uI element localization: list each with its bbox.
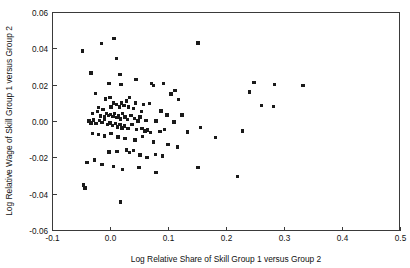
- y-axis-title: Log Relative Wage of Skill Group 1 versu…: [4, 26, 14, 216]
- x-tick-label: 0.0: [105, 234, 117, 243]
- plot-frame: [53, 13, 400, 231]
- data-point: [123, 124, 126, 127]
- data-point: [141, 135, 144, 138]
- data-point: [93, 158, 96, 161]
- data-point: [82, 183, 85, 186]
- data-point: [136, 119, 139, 122]
- data-point: [154, 171, 157, 174]
- data-point: [112, 37, 115, 40]
- data-point: [114, 122, 117, 125]
- data-point: [236, 175, 239, 178]
- data-point: [83, 186, 86, 189]
- x-tick-label: 0.3: [279, 234, 291, 243]
- data-point: [140, 110, 143, 113]
- x-tick-label: 0.5: [395, 234, 407, 243]
- y-axis-tick-labels: -0.06-0.04-0.020.000.020.040.06: [29, 9, 48, 236]
- data-point: [123, 137, 126, 140]
- data-point: [169, 92, 172, 95]
- data-point: [100, 163, 103, 166]
- data-point: [125, 99, 128, 102]
- x-axis-title: Log Relative Share of Skill Group 1 vers…: [131, 254, 322, 264]
- data-point: [146, 128, 149, 131]
- data-point: [115, 150, 118, 153]
- data-point: [133, 138, 136, 141]
- data-point: [301, 84, 304, 87]
- y-tick-label: -0.04: [29, 191, 48, 200]
- data-point: [133, 117, 136, 120]
- data-point: [154, 119, 157, 122]
- data-point: [107, 150, 110, 153]
- data-point: [173, 89, 176, 92]
- data-point: [128, 96, 131, 99]
- scatter-chart-figure: -0.10.00.10.20.30.40.5 -0.06-0.04-0.020.…: [0, 0, 410, 268]
- data-point: [121, 112, 124, 115]
- y-tick-label: -0.02: [29, 154, 48, 163]
- data-point: [97, 133, 100, 136]
- data-point: [152, 140, 155, 143]
- data-point: [199, 126, 202, 129]
- data-point: [92, 118, 95, 121]
- data-point: [130, 123, 133, 126]
- y-tick-label: 0.02: [32, 82, 48, 91]
- data-point: [148, 102, 151, 105]
- data-point: [137, 166, 140, 169]
- data-point: [140, 127, 143, 130]
- data-point: [109, 105, 112, 108]
- x-axis-tick-labels: -0.10.00.10.20.30.40.5: [45, 234, 406, 243]
- data-point: [89, 71, 92, 74]
- data-point: [142, 103, 145, 106]
- data-point: [196, 41, 199, 44]
- y-tick-label: 0.04: [32, 45, 48, 54]
- data-point: [272, 105, 275, 108]
- data-point: [103, 117, 106, 120]
- data-point: [248, 90, 251, 93]
- data-point: [125, 148, 128, 151]
- data-point: [145, 156, 148, 159]
- data-point: [112, 101, 115, 104]
- data-point: [94, 122, 97, 125]
- data-point: [172, 120, 175, 123]
- data-point: [134, 101, 137, 104]
- data-point: [214, 136, 217, 139]
- data-point: [126, 118, 129, 121]
- data-point: [115, 103, 118, 106]
- y-tick-label: 0.00: [32, 118, 48, 127]
- data-point: [135, 128, 138, 131]
- data-point: [108, 96, 111, 99]
- data-point: [109, 132, 112, 135]
- data-point: [152, 84, 155, 87]
- data-point: [165, 113, 168, 116]
- data-point: [118, 123, 121, 126]
- data-point: [143, 129, 146, 132]
- data-point: [101, 108, 104, 111]
- data-point: [134, 78, 137, 81]
- data-point: [112, 165, 115, 168]
- data-point: [89, 121, 92, 124]
- data-point: [117, 114, 120, 117]
- data-point: [121, 168, 124, 171]
- data-point: [100, 121, 103, 124]
- y-axis-ticks: [53, 13, 57, 231]
- data-point: [180, 113, 183, 116]
- data-point: [138, 115, 141, 118]
- x-tick-label: 0.1: [163, 234, 175, 243]
- data-point: [186, 130, 189, 133]
- data-point: [91, 112, 94, 115]
- data-point: [97, 106, 100, 109]
- data-point: [128, 151, 131, 154]
- x-tick-label: 0.2: [221, 234, 233, 243]
- data-point: [122, 104, 125, 107]
- data-point: [118, 73, 121, 76]
- y-tick-label: 0.06: [32, 9, 48, 18]
- data-point: [107, 82, 110, 85]
- data-point: [104, 97, 107, 100]
- data-point: [159, 109, 162, 112]
- x-axis-ticks: [53, 227, 401, 231]
- data-point: [132, 149, 135, 152]
- data-point: [176, 145, 179, 148]
- data-point: [119, 83, 122, 86]
- data-point: [149, 131, 152, 134]
- data-point: [163, 128, 166, 131]
- plot-canvas: -0.10.00.10.20.30.40.5 -0.06-0.04-0.020.…: [0, 0, 410, 268]
- data-point: [129, 114, 132, 117]
